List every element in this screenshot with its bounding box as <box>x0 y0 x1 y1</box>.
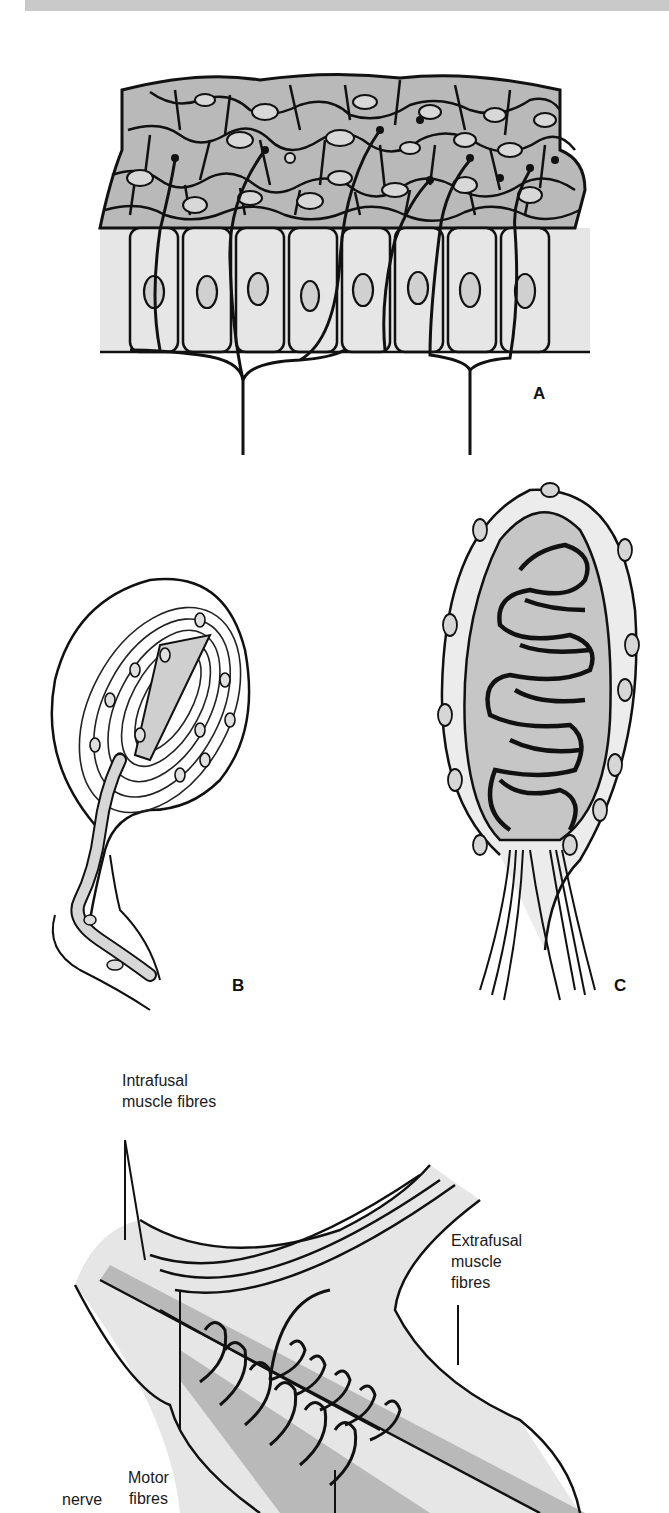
figure-b-label: B <box>232 976 244 996</box>
label-extrafusal-muscle-fibres: Extrafusal muscle fibres <box>451 1230 522 1293</box>
figure-a-label: A <box>533 384 545 404</box>
figure-a-epithelium: A <box>0 0 669 470</box>
label-intrafusal-muscle-fibres: Intrafusal muscle fibres <box>122 1070 216 1112</box>
label-motor-fibres: Motor fibres <box>128 1467 169 1509</box>
coiled-corpuscle-illustration <box>420 470 660 1020</box>
muscle-spindle-illustration <box>0 1060 669 1513</box>
figure-c-label: C <box>614 976 626 996</box>
lamellated-corpuscle-illustration <box>0 560 320 1020</box>
figure-b-lamellated-corpuscle: B <box>0 560 320 1020</box>
figure-c-coiled-corpuscle: C <box>420 470 660 1020</box>
epithelium-illustration <box>0 0 669 470</box>
label-nerve: nerve <box>62 1489 102 1510</box>
figure-d-muscle-spindle: Intrafusal muscle fibres Extrafusal musc… <box>0 1060 669 1513</box>
